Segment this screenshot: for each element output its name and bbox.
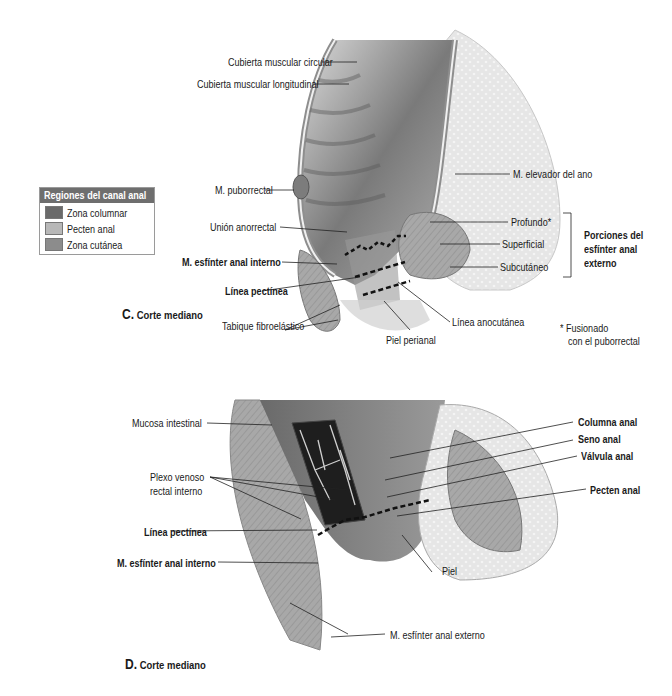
- label-piel: Piel: [442, 565, 457, 577]
- label-valvula-anal: Válvula anal: [581, 450, 633, 462]
- legend-item-pecten-anal: Pecten anal: [45, 222, 154, 235]
- label-subcutaneo: Subcutáneo: [500, 261, 548, 273]
- label-esfinter-interno-d: M. esfínter anal interno: [117, 557, 216, 569]
- caption-c: C. Corte mediano: [122, 306, 203, 322]
- label-piel-perianal: Piel perianal: [386, 334, 436, 346]
- label-linea-anocutanea: Línea anocutánea: [452, 316, 524, 328]
- footnote-2: con el puborrectal: [568, 335, 640, 347]
- legend-title: Regiones del canal anal: [40, 188, 154, 203]
- label-plexo-2: rectal interno: [150, 485, 202, 497]
- swatch-pecten-anal: [45, 222, 63, 235]
- label-profundo: Profundo*: [511, 216, 551, 228]
- anatomical-illustration: [0, 0, 672, 696]
- swatch-zona-columnar: [45, 206, 63, 219]
- label-porciones-1: Porciones del: [584, 229, 643, 241]
- legend-item-zona-columnar: Zona columnar: [45, 206, 154, 219]
- label-cubierta-circular: Cubierta muscular circular: [228, 56, 333, 68]
- label-porciones-3: externo: [584, 257, 617, 269]
- swatch-zona-cutanea: [45, 238, 63, 251]
- label-esfinter-interno-c: M. esfínter anal interno: [182, 256, 281, 268]
- legend-item-zona-cutanea: Zona cutánea: [45, 238, 154, 251]
- label-cubierta-longitudinal: Cubierta muscular longitudinal: [197, 78, 318, 90]
- figure-d-art: [172, 400, 586, 650]
- label-linea-pectinea-d: Línea pectínea: [144, 526, 207, 538]
- label-elevador: M. elevador del ano: [513, 168, 592, 180]
- caption-d: D. Corte mediano: [125, 656, 206, 672]
- label-esfinter-externo: M. esfínter anal externo: [390, 629, 485, 641]
- figure-c-art: [262, 30, 571, 331]
- label-mucosa: Mucosa intestinal: [132, 417, 202, 429]
- label-columna-anal: Columna anal: [578, 416, 637, 428]
- label-porciones-2: esfínter anal: [584, 243, 637, 255]
- label-linea-pectinea-c: Línea pectínea: [225, 285, 288, 297]
- label-pecten-anal: Pecten anal: [590, 484, 640, 496]
- label-puborrectal: M. puborrectal: [215, 184, 273, 196]
- label-tabique: Tabique fibroelástico: [222, 320, 304, 332]
- label-union-anorrectal: Unión anorrectal: [210, 221, 276, 233]
- label-superficial: Superficial: [502, 238, 544, 250]
- footnote-1: * Fusionado: [560, 322, 608, 334]
- label-plexo-1: Plexo venoso: [150, 471, 204, 483]
- label-seno-anal: Seno anal: [578, 433, 621, 445]
- legend-anal-canal-regions: Regiones del canal anal Zona columnar Pe…: [39, 187, 155, 255]
